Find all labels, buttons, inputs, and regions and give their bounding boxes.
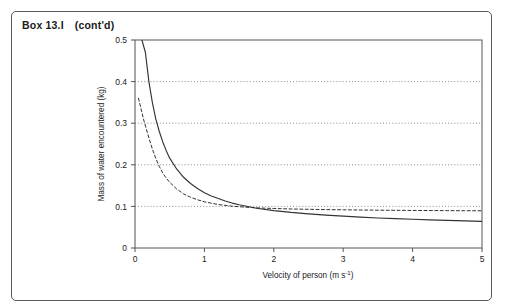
grid-lines [135,82,482,207]
x-tick-label-5: 5 [480,254,485,264]
y-tick-label-0.5: 0.5 [115,35,127,45]
plot-frame [135,40,482,248]
x-tick-label-3: 3 [341,254,346,264]
data-series-group [138,40,482,221]
x-axis-title-main: Velocity of person (m s [263,271,346,280]
y-tick-label-0.2: 0.2 [115,160,127,170]
y-tick-label-0: 0 [122,243,127,253]
series-line-0 [142,40,482,221]
x-tick-label-0: 0 [133,254,138,264]
x-axis-tick-labels: 012345 [133,254,485,264]
x-tick-label-1: 1 [202,254,207,264]
y-tick-label-0.4: 0.4 [115,77,127,87]
y-tick-label-0.3: 0.3 [115,118,127,128]
x-tick-label-4: 4 [410,254,415,264]
x-axis-title: Velocity of person (m s-1) [263,270,354,280]
y-tick-label-0.1: 0.1 [115,202,127,212]
y-axis-ticks [131,40,135,248]
x-axis-title-tail: ) [351,271,354,280]
series-line-1 [138,98,482,211]
x-axis-ticks [135,248,482,252]
y-axis-tick-labels: 00.10.20.30.40.5 [115,35,127,253]
x-tick-label-2: 2 [271,254,276,264]
y-axis-title: Mass of water encountered (kg) [97,86,106,201]
